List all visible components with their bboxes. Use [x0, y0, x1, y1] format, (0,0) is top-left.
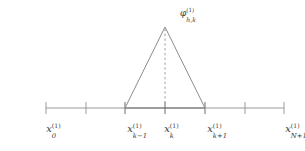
axis-label-xk-plus-1: x(1)k+1: [207, 124, 213, 134]
axis-label-x0: x(1)0: [46, 124, 52, 134]
function-label: φ(1)h,k: [180, 9, 186, 18]
axis-label-xk-superscript: (1): [170, 123, 179, 129]
axis-label-xk-plus-1-subscript: k+1: [213, 133, 227, 140]
axis-label-xk-subscript: k: [170, 133, 174, 140]
axis-label-x0-superscript: (1): [52, 123, 61, 129]
axis-label-xk-plus-1-superscript: (1): [213, 123, 222, 129]
axis-label-xk-minus-1-subscript: k−1: [133, 133, 147, 140]
axis-label-xk: x(1)k: [164, 124, 170, 134]
axis-label-xN-plus-1: x(1)N+1: [285, 124, 291, 134]
function-label-superscript: (1): [186, 8, 194, 14]
axis-label-xN-plus-1-superscript: (1): [291, 123, 300, 129]
axis-label-xN-plus-1-subscript: N+1: [291, 133, 305, 140]
axis-label-xk-minus-1: x(1)k−1: [127, 124, 133, 134]
figure-canvas: φ(1)h,k x(1)0 x(1)k−1 x(1)k x(1)k+1 x(1)…: [0, 0, 305, 151]
axis-label-x0-subscript: 0: [52, 133, 56, 140]
function-label-subscript: h,k: [186, 17, 196, 23]
axis-label-xk-minus-1-superscript: (1): [133, 123, 142, 129]
